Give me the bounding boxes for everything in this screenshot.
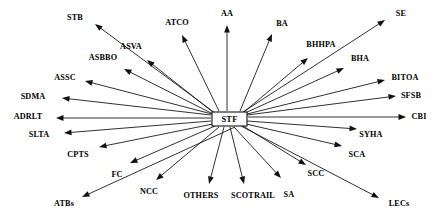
node-label-lecs[interactable]: LECs [389, 200, 410, 208]
radial-network-diagram: STBATCOAABASEASVAASBBOBHHPABHAASSCBITOAS… [0, 0, 439, 217]
arrow-head-others [208, 176, 214, 184]
edge-line-bitoa [247, 81, 379, 114]
edge-line-se [243, 23, 380, 112]
node-label-scotrail[interactable]: SCOTRAIL [231, 192, 275, 200]
edge-line-bha [245, 70, 339, 113]
edge-line-sdma [68, 99, 211, 115]
edges-group [56, 20, 406, 198]
edge-line-assc [91, 83, 212, 114]
arrow-head-scotrail [239, 176, 245, 184]
node-label-ncc[interactable]: NCC [140, 188, 158, 196]
arrow-head-adrlt [56, 115, 64, 121]
arrow-head-syha [349, 126, 357, 132]
arrow-head-aa [224, 25, 230, 33]
edge-line-ba [240, 40, 270, 111]
arrow-head-ba [266, 34, 272, 42]
node-label-cbi[interactable]: CBI [411, 113, 426, 121]
node-label-aa[interactable]: AA [221, 10, 233, 18]
node-label-others[interactable]: OTHERS [183, 192, 218, 200]
node-label-adrlt[interactable]: ADRLT [14, 113, 43, 121]
node-label-bha[interactable]: BHA [351, 55, 369, 63]
arrow-head-bitoa [377, 79, 385, 85]
node-label-assc[interactable]: ASSC [54, 74, 76, 82]
arrow-head-bha [336, 68, 344, 74]
diagram-canvas [0, 0, 439, 217]
node-label-scc[interactable]: SCC [308, 170, 325, 178]
node-label-se[interactable]: SE [396, 10, 406, 18]
arrow-head-fc [130, 157, 138, 163]
arrow-head-se [377, 20, 385, 27]
edge-line-bhhpa [244, 62, 303, 112]
node-label-syha[interactable]: SYHA [359, 131, 382, 139]
node-label-sfsb[interactable]: SFSB [401, 92, 421, 100]
edge-line-lecs [241, 126, 374, 195]
arrow-head-cbi [399, 114, 407, 120]
arrow-head-asbbo [124, 69, 132, 75]
edge-line-cpts [105, 124, 213, 146]
arrow-head-atbs [82, 191, 90, 197]
center-node-label: STF [222, 115, 238, 124]
node-label-bitoa[interactable]: BITOA [392, 74, 419, 82]
edge-line-asva [152, 64, 214, 113]
edge-line-sfsb [247, 97, 390, 115]
node-label-bhhpa[interactable]: BHHPA [306, 41, 335, 49]
edge-line-sca [246, 124, 336, 145]
node-label-fc[interactable]: FC [111, 171, 122, 179]
arrow-head-sca [334, 141, 342, 147]
node-label-slta[interactable]: SLTA [29, 131, 50, 139]
arrow-head-stb [95, 24, 103, 31]
arrow-head-cpts [99, 143, 107, 149]
node-label-sdma[interactable]: SDMA [21, 93, 46, 101]
node-label-asbbo[interactable]: ASBBO [89, 54, 118, 62]
arrow-head-atco [182, 35, 188, 43]
node-label-stb[interactable]: STB [67, 14, 83, 22]
edge-line-atco [185, 40, 219, 111]
node-label-atbs[interactable]: ATBs [54, 200, 74, 208]
arrow-head-assc [85, 80, 93, 86]
node-label-asva[interactable]: ASVA [120, 43, 142, 51]
edge-line-atbs [87, 127, 235, 195]
arrow-head-lecs [371, 192, 379, 198]
edge-line-ncc [161, 127, 219, 176]
node-label-sa[interactable]: SA [284, 191, 295, 199]
node-label-ba[interactable]: BA [276, 20, 288, 28]
node-label-cpts[interactable]: CPTS [67, 151, 89, 159]
node-label-atco[interactable]: ATCO [165, 19, 189, 27]
node-label-sca[interactable]: SCA [349, 151, 366, 159]
arrow-head-slta [64, 129, 72, 135]
edge-line-asbbo [129, 72, 213, 114]
arrow-head-sfsb [388, 94, 396, 100]
edge-line-slta [70, 121, 211, 133]
arrow-head-sdma [62, 96, 70, 102]
